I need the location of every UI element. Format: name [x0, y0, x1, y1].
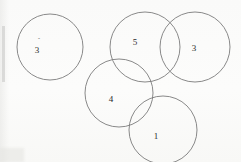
circle-lower-middle — [85, 59, 153, 127]
circle-lower-middle-label: 4 — [109, 95, 114, 104]
circle-top-middle-label: 5 — [133, 38, 138, 47]
circle-top-right-label: 3 — [192, 44, 197, 53]
circles-group — [0, 0, 241, 162]
circle-lower-right-label: 1 — [154, 132, 159, 141]
circle-left — [17, 14, 83, 80]
speck-mark-icon: ˆ — [38, 37, 40, 43]
circle-left-label: 3 — [35, 46, 40, 55]
circle-lower-right — [129, 96, 197, 162]
diagram-canvas: 3 5 3 4 1 ˆ — [0, 0, 241, 162]
